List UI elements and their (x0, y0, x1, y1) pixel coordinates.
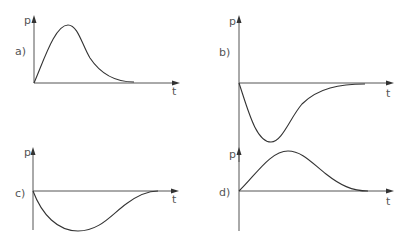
t-axis-label: t (172, 85, 177, 98)
p-axis-arrow-icon (31, 147, 36, 155)
panel-label: b) (219, 46, 230, 59)
panel-b: p b) t (219, 15, 394, 162)
pulse-curve (239, 151, 368, 191)
panel-label: d) (219, 186, 230, 199)
pulse-curve (239, 83, 365, 142)
panel-label: c) (15, 187, 25, 200)
panel-c: p c) t (15, 146, 179, 231)
p-axis-arrow-icon (237, 147, 242, 155)
pulse-diagram: p a) t p b) t p c) t p d) t (0, 0, 408, 243)
t-axis-arrow-icon (386, 81, 394, 86)
t-axis-label: t (172, 193, 177, 206)
p-axis-label: p (229, 15, 236, 28)
p-axis-arrow-icon (237, 15, 242, 23)
t-axis-arrow-icon (386, 189, 394, 194)
t-axis-label: t (386, 195, 391, 208)
t-axis-label: t (386, 87, 391, 100)
p-axis-arrow-icon (32, 15, 37, 23)
pulse-curve (33, 191, 158, 231)
p-axis-label: p (24, 14, 31, 27)
p-axis-label: p (229, 148, 236, 161)
panel-a: p a) t (15, 14, 180, 98)
panel-d: p d) t (219, 147, 394, 231)
panel-label: a) (15, 45, 26, 58)
pulse-curve (34, 25, 134, 83)
p-axis-label: p (24, 146, 31, 159)
